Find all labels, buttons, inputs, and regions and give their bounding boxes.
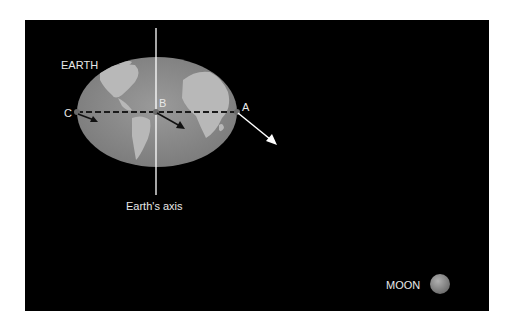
tidal-force-diagram (0, 0, 510, 328)
moon-icon (430, 274, 450, 294)
axis-label: Earth's axis (126, 200, 183, 212)
point-c-label: C (64, 107, 72, 119)
force-arrow-a-icon (238, 113, 277, 145)
point-b-label: B (159, 97, 166, 109)
point-a-label: A (242, 101, 249, 113)
earth-label: EARTH (61, 59, 98, 71)
moon-label: MOON (386, 279, 420, 291)
